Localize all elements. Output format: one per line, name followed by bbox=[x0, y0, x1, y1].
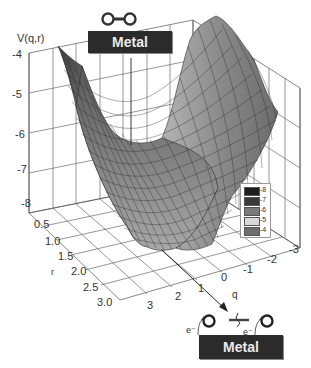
molecule-intact-icon bbox=[103, 14, 136, 25]
legend-entry: -5 bbox=[244, 216, 270, 225]
x-axis-title: q bbox=[232, 290, 238, 300]
q-tick: -1 bbox=[243, 264, 253, 275]
r-tick: 3.0 bbox=[97, 297, 112, 308]
molecule-dissociated-icon bbox=[198, 313, 273, 335]
legend-entry: -7 bbox=[244, 196, 270, 205]
legend-entry: -8 bbox=[244, 186, 270, 195]
q-tick: -3 bbox=[289, 244, 299, 255]
metal-block-bottom: Metal bbox=[199, 335, 283, 359]
r-tick: 1.5 bbox=[58, 251, 73, 262]
q-tick: -2 bbox=[267, 254, 277, 265]
q-tick: 3 bbox=[147, 300, 153, 311]
r-tick: 2.5 bbox=[83, 282, 98, 293]
legend-entry: -4 bbox=[244, 226, 270, 235]
bottom-arrow bbox=[162, 250, 228, 312]
metal-block-top: Metal bbox=[88, 31, 172, 53]
r-tick: 2.0 bbox=[71, 266, 86, 277]
z-tick: -4 bbox=[12, 49, 22, 60]
electron-label-left: e⁻ bbox=[186, 326, 196, 335]
r-tick: 1.0 bbox=[45, 236, 60, 247]
z-tick: -6 bbox=[15, 129, 25, 140]
electron-label-right: e⁻ bbox=[243, 328, 253, 337]
z-tick: -7 bbox=[17, 164, 27, 175]
legend-entry: -6 bbox=[244, 206, 270, 215]
q-tick: 2 bbox=[175, 291, 181, 302]
r-tick: 0.5 bbox=[34, 219, 49, 230]
q-tick: 1 bbox=[198, 283, 204, 294]
z-tick: -5 bbox=[12, 89, 22, 100]
q-tick: 0 bbox=[221, 272, 227, 283]
z-axis-title: V(q,r) bbox=[17, 33, 45, 44]
color-legend: -8 -7 -6 -5 -4 bbox=[240, 183, 271, 238]
y-axis-title: r bbox=[51, 268, 54, 277]
z-tick: -8 bbox=[21, 198, 31, 209]
